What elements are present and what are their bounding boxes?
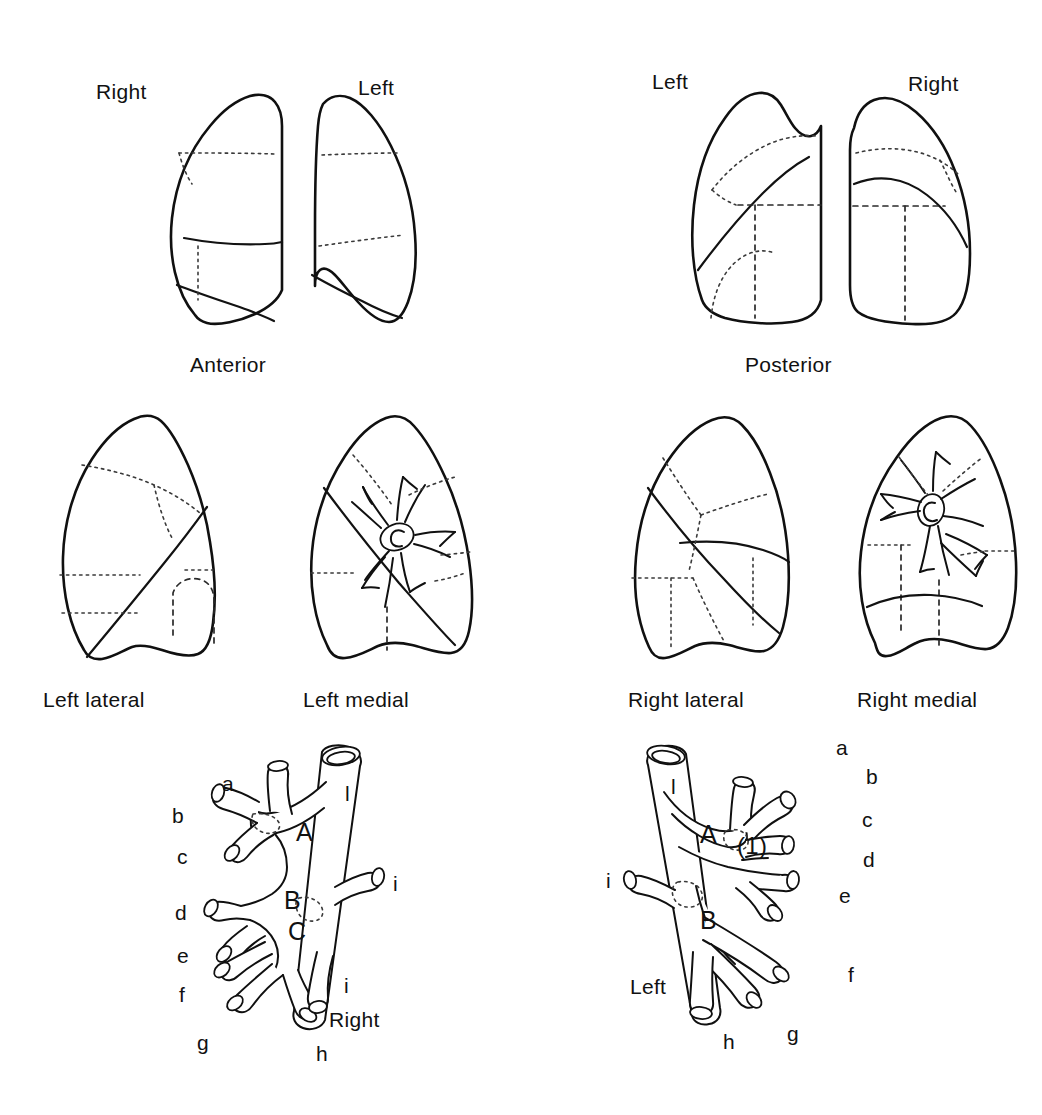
right-tree-side-label: Right xyxy=(329,1008,380,1032)
right-lateral-drawing xyxy=(605,395,830,675)
left-tree-annotation: (1) xyxy=(737,832,767,860)
posterior-right-label: Right xyxy=(908,72,959,96)
right-tree-label-C: C xyxy=(288,917,306,946)
right-tree-label-A: A xyxy=(296,818,313,847)
right-tree-label-g: g xyxy=(197,1031,209,1055)
left-lateral-caption: Left lateral xyxy=(43,688,145,712)
right-medial-drawing xyxy=(835,395,1042,675)
posterior-caption: Posterior xyxy=(745,353,832,377)
right-tree-label-i-lower: i xyxy=(344,974,349,998)
left-tree-label-d: d xyxy=(863,848,875,872)
posterior-left-label: Left xyxy=(652,70,688,94)
left-medial-drawing xyxy=(275,395,510,675)
right-bronchial-tree-drawing xyxy=(175,730,405,1040)
right-lateral-caption: Right lateral xyxy=(628,688,744,712)
left-tree-label-i: i xyxy=(606,869,611,893)
left-tree-label-B: B xyxy=(700,906,717,935)
left-medial-caption: Left medial xyxy=(303,688,409,712)
left-tree-label-a: a xyxy=(836,736,848,760)
right-tree-label-d: d xyxy=(175,901,187,925)
left-lateral-drawing xyxy=(30,395,260,675)
left-tree-side-label: Left xyxy=(630,975,666,999)
anterior-caption: Anterior xyxy=(190,353,266,377)
left-tree-label-g: g xyxy=(787,1022,799,1046)
figure-sheet: Right Left Anterior Left Right Posterior xyxy=(0,0,1042,1115)
left-tree-label-f: f xyxy=(848,963,854,987)
anterior-left-label: Left xyxy=(358,76,394,100)
right-tree-label-e: e xyxy=(177,944,189,968)
right-tree-label-B: B xyxy=(284,886,301,915)
anterior-right-label: Right xyxy=(96,80,147,104)
left-tree-label-c: c xyxy=(862,808,873,832)
left-tree-label-A: A xyxy=(700,820,717,849)
right-tree-label-trunk: l xyxy=(345,782,350,806)
right-tree-label-c: c xyxy=(177,845,188,869)
right-medial-caption: Right medial xyxy=(857,688,977,712)
left-tree-label-e: e xyxy=(839,884,851,908)
right-tree-label-h: h xyxy=(316,1042,328,1066)
left-tree-label-trunk: l xyxy=(671,775,676,799)
right-tree-label-i-upper: i xyxy=(393,872,398,896)
right-tree-label-f: f xyxy=(179,983,185,1007)
right-tree-label-b: b xyxy=(172,804,184,828)
right-tree-label-a: a xyxy=(222,772,234,796)
left-tree-label-b: b xyxy=(866,765,878,789)
left-tree-label-h: h xyxy=(723,1030,735,1054)
